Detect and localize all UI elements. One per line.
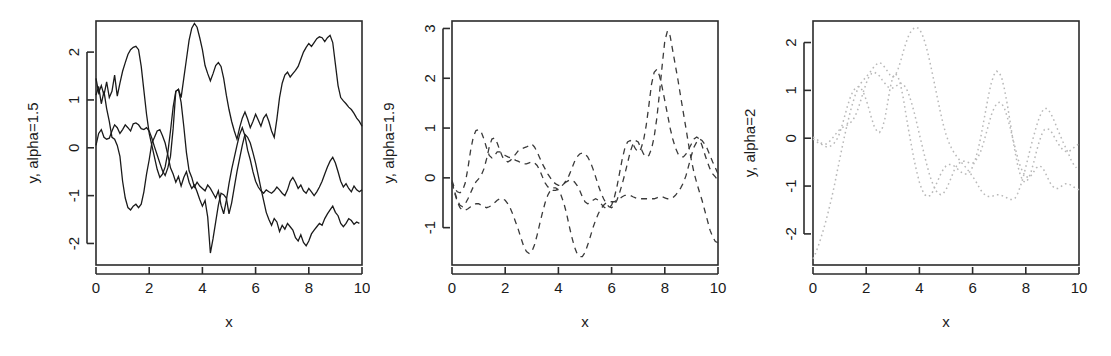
- x-tick-label: 8: [661, 279, 669, 296]
- plot-panel-alpha-1-9: -10123 0246810 y, alpha=1.9 x: [370, 0, 740, 356]
- panel-2-x-axis-title: x: [581, 313, 589, 330]
- panel-2-y-axis-title: y, alpha=1.9: [380, 102, 397, 183]
- panel-3-x-axis: 0246810: [809, 267, 1088, 296]
- x-tick-label: 0: [448, 279, 456, 296]
- y-tick-label: 1: [783, 86, 800, 94]
- panel-1-svg: -2-1012 0246810 y, alpha=1.5 x: [0, 0, 370, 356]
- panel-1-x-axis: 0246810: [92, 267, 370, 296]
- panel-3-y-axis-title: y, alpha=2: [741, 109, 758, 178]
- x-tick-label: 6: [251, 279, 259, 296]
- figure-panel-group: -2-1012 0246810 y, alpha=1.5 x -10123 02…: [0, 0, 1111, 356]
- panel-2-series: [452, 31, 718, 257]
- y-tick-label: -2: [66, 237, 83, 250]
- panel-3-series: [813, 27, 1079, 259]
- x-tick-label: 4: [915, 279, 923, 296]
- x-tick-label: 8: [1022, 279, 1030, 296]
- panel-1-series: [96, 23, 362, 253]
- plot-panel-alpha-1-5: -2-1012 0246810 y, alpha=1.5 x: [0, 0, 370, 356]
- panel-1-y-axis: -2-1012: [66, 48, 95, 250]
- x-tick-label: 10: [1071, 279, 1088, 296]
- y-tick-label: -1: [66, 189, 83, 202]
- panel-1-plot-frame: [96, 21, 362, 265]
- y-tick-label: -1: [422, 221, 439, 234]
- y-tick-label: 1: [66, 96, 83, 104]
- y-tick-label: 2: [783, 38, 800, 46]
- x-tick-label: 10: [710, 279, 727, 296]
- panel-2-x-axis: 0246810: [448, 267, 727, 296]
- x-tick-label: 4: [198, 279, 206, 296]
- x-tick-label: 0: [92, 279, 100, 296]
- data-series-line: [96, 87, 359, 253]
- data-series-line: [813, 27, 1076, 259]
- data-series-line: [452, 139, 718, 257]
- y-tick-label: 0: [783, 134, 800, 142]
- x-tick-label: 6: [968, 279, 976, 296]
- y-tick-label: 1: [422, 124, 439, 132]
- data-series-line: [452, 31, 718, 243]
- y-tick-label: 3: [422, 24, 439, 32]
- x-tick-label: 8: [305, 279, 313, 296]
- panel-2-y-axis: -10123: [422, 24, 451, 234]
- x-tick-label: 2: [862, 279, 870, 296]
- x-tick-label: 4: [554, 279, 562, 296]
- x-tick-label: 0: [809, 279, 817, 296]
- panel-3-x-axis-title: x: [942, 313, 950, 330]
- y-tick-label: 0: [422, 174, 439, 182]
- y-tick-label: -2: [783, 227, 800, 240]
- panel-1-y-axis-title: y, alpha=1.5: [24, 102, 41, 183]
- x-tick-label: 2: [501, 279, 509, 296]
- plot-panel-alpha-2: -2-1012 0246810 y, alpha=2 x: [740, 0, 1110, 356]
- panel-3-svg: -2-1012 0246810 y, alpha=2 x: [740, 0, 1110, 356]
- x-tick-label: 6: [607, 279, 615, 296]
- data-series-line: [452, 69, 718, 208]
- panel-2-svg: -10123 0246810 y, alpha=1.9 x: [370, 0, 740, 356]
- panel-3-y-axis: -2-1012: [783, 38, 812, 240]
- x-tick-label: 2: [145, 279, 153, 296]
- x-tick-label: 10: [354, 279, 370, 296]
- y-tick-label: 0: [66, 144, 83, 152]
- data-series-line: [96, 23, 362, 177]
- panel-2-plot-frame: [452, 21, 718, 265]
- y-tick-label: 2: [66, 48, 83, 56]
- y-tick-label: -1: [783, 179, 800, 192]
- y-tick-label: 2: [422, 74, 439, 82]
- panel-1-x-axis-title: x: [225, 313, 233, 330]
